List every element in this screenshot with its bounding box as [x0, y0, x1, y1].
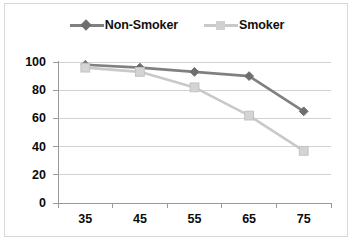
chart-canvas: [5, 4, 349, 238]
y-tick-label: 0: [10, 196, 46, 210]
y-tick-label: 40: [10, 140, 46, 154]
x-tick-label: 35: [78, 212, 92, 226]
y-tick-label: 20: [10, 168, 46, 182]
y-tick-label: 100: [10, 55, 46, 69]
x-tick-label: 65: [242, 212, 256, 226]
y-tick-label: 60: [10, 111, 46, 125]
x-tick-label: 55: [188, 212, 202, 226]
x-tick-marks: [58, 203, 331, 208]
axis-lines: [58, 61, 331, 203]
y-tick-marks: [53, 62, 58, 203]
plot-area: 100806040200 3545556575: [5, 4, 349, 238]
x-tick-label: 45: [133, 212, 147, 226]
x-tick-label: 75: [297, 212, 311, 226]
y-tick-label: 80: [10, 83, 46, 97]
series-layer: [81, 60, 308, 155]
chart-frame: Non-Smoker Smoker 100806040200 354555657…: [4, 3, 348, 237]
